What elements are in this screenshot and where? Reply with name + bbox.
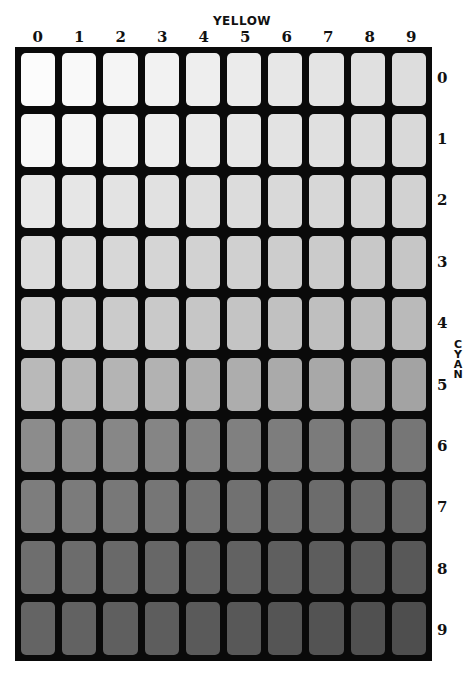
swatch-cell bbox=[392, 419, 426, 472]
swatch-cell bbox=[62, 602, 96, 655]
swatch-cell bbox=[351, 114, 385, 167]
column-label: 2 bbox=[100, 28, 142, 46]
column-label: 1 bbox=[59, 28, 101, 46]
column-label: 3 bbox=[142, 28, 184, 46]
swatch-cell bbox=[186, 297, 220, 350]
swatch-cell bbox=[145, 53, 179, 106]
column-label: 9 bbox=[391, 28, 433, 46]
swatch-cell bbox=[62, 541, 96, 594]
swatch-cell bbox=[268, 358, 302, 411]
swatch-cell bbox=[309, 602, 343, 655]
swatch-cell bbox=[309, 114, 343, 167]
swatch-cell bbox=[145, 541, 179, 594]
swatch-cell bbox=[103, 53, 137, 106]
swatch-cell bbox=[21, 419, 55, 472]
row-label: 6 bbox=[437, 415, 457, 476]
swatch-cell bbox=[309, 236, 343, 289]
swatch-cell bbox=[21, 175, 55, 228]
swatch-cell bbox=[268, 297, 302, 350]
swatch-cell bbox=[392, 297, 426, 350]
swatch-cell bbox=[268, 236, 302, 289]
row-label: 3 bbox=[437, 231, 457, 292]
swatch-cell bbox=[268, 419, 302, 472]
column-label: 6 bbox=[266, 28, 308, 46]
swatch-cell bbox=[392, 236, 426, 289]
swatch-cell bbox=[103, 358, 137, 411]
swatch-cell bbox=[227, 236, 261, 289]
swatch-cell bbox=[227, 114, 261, 167]
swatch-cell bbox=[392, 53, 426, 106]
swatch-cell bbox=[392, 480, 426, 533]
swatch-cell bbox=[145, 358, 179, 411]
swatch-cell bbox=[145, 175, 179, 228]
row-label: 2 bbox=[437, 170, 457, 231]
swatch-cell bbox=[186, 114, 220, 167]
swatch-cell bbox=[268, 602, 302, 655]
swatch-cell bbox=[145, 419, 179, 472]
row-label: 8 bbox=[437, 538, 457, 599]
swatch-grid bbox=[21, 53, 426, 655]
swatch-cell bbox=[268, 53, 302, 106]
swatch-cell bbox=[145, 236, 179, 289]
swatch-cell bbox=[21, 358, 55, 411]
swatch-cell bbox=[186, 541, 220, 594]
swatch-cell bbox=[62, 175, 96, 228]
swatch-cell bbox=[392, 114, 426, 167]
swatch-cell bbox=[227, 53, 261, 106]
swatch-cell bbox=[351, 480, 385, 533]
cyan-axis-title: CYAN bbox=[451, 340, 465, 380]
swatch-cell bbox=[103, 236, 137, 289]
swatch-cell bbox=[62, 297, 96, 350]
swatch-cell bbox=[351, 358, 385, 411]
swatch-cell bbox=[268, 541, 302, 594]
swatch-cell bbox=[21, 480, 55, 533]
row-label: 9 bbox=[437, 600, 457, 661]
swatch-frame bbox=[15, 47, 432, 661]
swatch-cell bbox=[62, 236, 96, 289]
swatch-cell bbox=[268, 480, 302, 533]
column-label: 4 bbox=[183, 28, 225, 46]
swatch-cell bbox=[145, 297, 179, 350]
swatch-cell bbox=[309, 297, 343, 350]
swatch-cell bbox=[62, 419, 96, 472]
swatch-cell bbox=[21, 541, 55, 594]
swatch-cell bbox=[62, 358, 96, 411]
swatch-cell bbox=[351, 175, 385, 228]
swatch-cell bbox=[268, 175, 302, 228]
row-label: 0 bbox=[437, 47, 457, 108]
swatch-cell bbox=[21, 53, 55, 106]
swatch-cell bbox=[103, 541, 137, 594]
swatch-cell bbox=[351, 297, 385, 350]
swatch-cell bbox=[227, 358, 261, 411]
swatch-cell bbox=[21, 114, 55, 167]
swatch-cell bbox=[351, 236, 385, 289]
swatch-cell bbox=[309, 419, 343, 472]
swatch-cell bbox=[351, 419, 385, 472]
column-label: 0 bbox=[17, 28, 59, 46]
swatch-cell bbox=[392, 358, 426, 411]
swatch-cell bbox=[227, 419, 261, 472]
swatch-cell bbox=[351, 53, 385, 106]
swatch-cell bbox=[21, 602, 55, 655]
swatch-cell bbox=[309, 358, 343, 411]
column-label: 7 bbox=[308, 28, 350, 46]
swatch-cell bbox=[227, 175, 261, 228]
swatch-cell bbox=[62, 53, 96, 106]
swatch-cell bbox=[145, 602, 179, 655]
swatch-cell bbox=[145, 480, 179, 533]
swatch-cell bbox=[186, 419, 220, 472]
swatch-cell bbox=[186, 480, 220, 533]
swatch-cell bbox=[186, 602, 220, 655]
swatch-cell bbox=[103, 480, 137, 533]
swatch-cell bbox=[186, 358, 220, 411]
swatch-cell bbox=[309, 480, 343, 533]
row-label: 7 bbox=[437, 477, 457, 538]
swatch-cell bbox=[351, 602, 385, 655]
swatch-cell bbox=[227, 480, 261, 533]
swatch-cell bbox=[309, 53, 343, 106]
swatch-cell bbox=[103, 297, 137, 350]
swatch-cell bbox=[392, 541, 426, 594]
swatch-cell bbox=[103, 419, 137, 472]
swatch-cell bbox=[227, 602, 261, 655]
swatch-cell bbox=[309, 541, 343, 594]
